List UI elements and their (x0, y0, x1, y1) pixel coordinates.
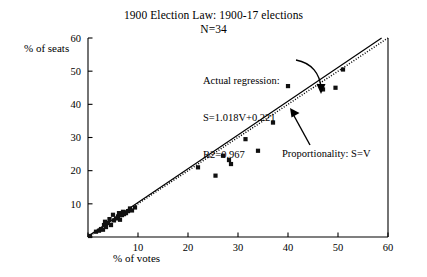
x-tick-label: 50 (333, 242, 344, 253)
data-point (196, 165, 200, 169)
data-point (286, 84, 290, 88)
proportionality-arrow (293, 114, 310, 145)
annotation-arrows (290, 60, 326, 145)
data-point (271, 120, 275, 124)
x-tick-label: 40 (283, 242, 294, 253)
y-tick-label: 30 (71, 132, 82, 143)
regression-arrow (296, 60, 321, 88)
y-tick-label: 60 (71, 33, 82, 44)
x-tick-label: 10 (133, 242, 144, 253)
data-point (227, 158, 231, 162)
y-tick-label: 50 (71, 66, 82, 77)
data-point (229, 162, 233, 166)
data-point (213, 174, 217, 178)
data-point (256, 149, 260, 153)
x-tick-label: 20 (183, 242, 194, 253)
y-tick-label: 10 (71, 199, 82, 210)
data-point (88, 234, 92, 238)
x-tick-label: 30 (233, 242, 244, 253)
y-tick-label: 40 (71, 99, 82, 110)
data-points (88, 67, 345, 238)
data-point (333, 86, 337, 90)
y-tick-label: 20 (71, 165, 82, 176)
data-point (104, 225, 108, 229)
data-point (221, 154, 225, 158)
data-point (243, 137, 247, 141)
data-point (341, 67, 345, 71)
data-point (118, 218, 122, 222)
data-point (109, 223, 113, 227)
data-point (133, 205, 137, 209)
chart-page: 1900 Election Law: 1900-17 elections N=3… (0, 0, 427, 277)
data-point (111, 213, 115, 217)
data-point (107, 217, 111, 221)
x-tick-label: 60 (383, 242, 394, 253)
scatter-plot: 102030405060102030405060 (0, 0, 427, 277)
